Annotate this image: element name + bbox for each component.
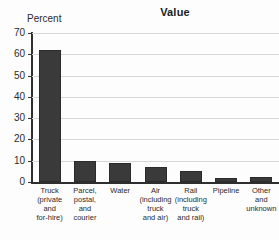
- gridline: [32, 33, 279, 34]
- bar: [145, 167, 167, 182]
- y-tick-label: 70: [0, 28, 25, 38]
- y-tick-label: 50: [0, 71, 25, 81]
- x-tick-label: Air (including truck and air): [136, 186, 175, 222]
- x-tick-label: Rail (including truck and rail): [171, 186, 210, 222]
- x-tick-label: Parcel, postal, and courier: [65, 186, 104, 222]
- x-tick-label: Other and unknown: [242, 186, 279, 213]
- y-axis-label: Percent: [27, 13, 61, 24]
- bar: [109, 163, 131, 182]
- gridline: [32, 118, 279, 119]
- y-tick-label: 40: [0, 92, 25, 102]
- x-tick-label: Pipeline: [206, 186, 245, 195]
- bar: [215, 178, 237, 182]
- gridline: [32, 139, 279, 140]
- bar-chart: Value Percent 706050403020100 Truck (pri…: [0, 0, 279, 240]
- x-tick-label: Water: [101, 186, 140, 195]
- bar: [250, 177, 272, 182]
- y-tick-label: 30: [0, 113, 25, 123]
- gridline: [32, 54, 279, 55]
- x-tick-label: Truck (private and for-hire): [30, 186, 69, 222]
- y-tick-label: 0: [0, 177, 25, 187]
- chart-title: Value: [110, 6, 240, 18]
- bar: [180, 171, 202, 182]
- bar: [39, 50, 61, 182]
- x-axis-line: [31, 182, 279, 184]
- bar: [74, 161, 96, 182]
- gridline: [32, 161, 279, 162]
- gridline: [32, 97, 279, 98]
- plot-area: [32, 33, 279, 182]
- y-tick-label: 20: [0, 134, 25, 144]
- gridline: [32, 76, 279, 77]
- y-tick-label: 10: [0, 156, 25, 166]
- y-tick-label: 60: [0, 49, 25, 59]
